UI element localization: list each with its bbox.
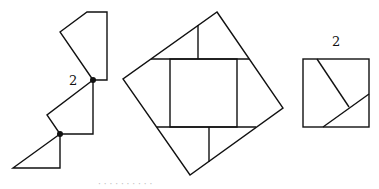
right-square-dissection (303, 59, 369, 127)
top-pentagon-piece (60, 12, 107, 80)
hinge-dot-lower (57, 131, 63, 137)
center-square-dissection (123, 12, 283, 175)
left-label: 2 (69, 73, 77, 88)
caption-fragment: · · · · · · · · · · (98, 179, 152, 189)
inner-square (170, 59, 237, 127)
dissection-diagram: 2 2 · · · · · · · · · · (0, 0, 379, 189)
left-hinged-pieces (13, 12, 107, 168)
hinge-dot-upper (90, 77, 96, 83)
bottom-triangle-piece (13, 134, 60, 168)
right-diagonal-cut-1 (317, 59, 349, 107)
right-label: 2 (332, 34, 340, 49)
outer-tilted-square (123, 12, 283, 175)
right-square (303, 59, 369, 127)
middle-quad-piece (47, 80, 93, 134)
right-diagonal-cut-2 (323, 94, 369, 127)
